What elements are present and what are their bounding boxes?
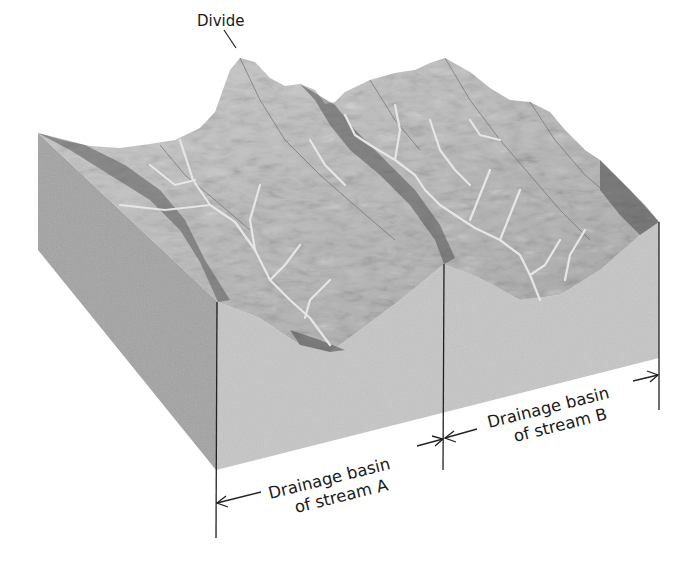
basin-a-label: Drainage basin of stream A (266, 454, 397, 522)
divide-label: Divide (197, 12, 245, 30)
divide-pointer-line (224, 30, 236, 48)
drainage-basin-block-diagram: Divide Drainage basin of stream A Draina… (0, 0, 687, 567)
